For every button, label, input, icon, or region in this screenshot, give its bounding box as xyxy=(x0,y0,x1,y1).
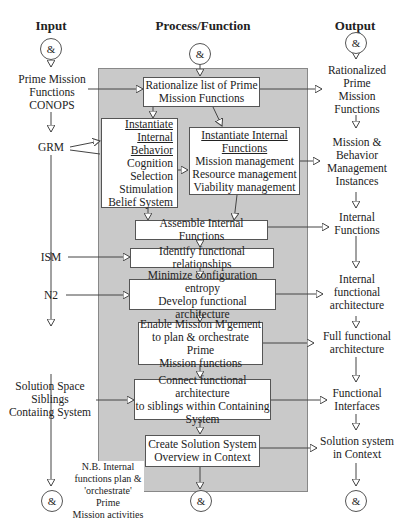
output-management-instances: Mission & Behavior Management Instances xyxy=(316,136,398,188)
process-identify-relationships: Identify functional relationships xyxy=(130,248,274,268)
input-grm: GRM xyxy=(30,141,72,154)
process-instantiate-functions: Instantiate Internal Functions Mission m… xyxy=(189,127,300,195)
note-orchestrate: N.B. Internal functions plan & 'orchestr… xyxy=(72,461,144,521)
process-label: Connect functional architecture to sibli… xyxy=(135,374,270,426)
output-rationalized-functions: Rationalized Prime Mission Functions xyxy=(318,64,396,116)
input-end-connector: & xyxy=(41,490,63,512)
output-internal-architecture: Internal functional architecture xyxy=(318,273,396,312)
input-prime-mission-functions: Prime Mission Functions CONOPS xyxy=(12,73,92,112)
process-label: Mission management Resource management V… xyxy=(192,155,296,194)
input-start-connector: & xyxy=(40,38,62,60)
output-solution-in-context: Solution system in Context xyxy=(316,435,398,461)
process-end-connector: & xyxy=(190,490,212,512)
process-label: Minimize configuration entropy Develop f… xyxy=(130,269,275,321)
input-ism: ISM xyxy=(30,251,72,264)
process-label: Create Solution System Overview in Conte… xyxy=(148,438,257,464)
process-label: Assemble Internal Functions xyxy=(136,217,267,243)
output-functional-interfaces: Functional Interfaces xyxy=(318,387,396,413)
process-label: Rationalize list of Prime Mission Functi… xyxy=(145,79,257,105)
input-n2: N2 xyxy=(30,289,72,302)
process-instantiate-behavior: Instantiate Internal Behavior Cognition … xyxy=(101,118,178,208)
output-internal-functions: Internal Functions xyxy=(318,211,396,237)
output-end-connector: & xyxy=(345,490,367,512)
process-assemble: Assemble Internal Functions xyxy=(135,220,268,240)
process-title: Instantiate Internal Functions xyxy=(201,129,288,155)
process-label: Enable Mission M'gement to plan & orches… xyxy=(139,318,262,370)
output-full-architecture: Full functional architecture xyxy=(316,330,398,356)
output-start-connector: & xyxy=(345,32,367,54)
process-label: Cognition Selection Stimulation Belief S… xyxy=(108,157,173,209)
process-minimize-entropy: Minimize configuration entropy Develop f… xyxy=(129,279,276,310)
process-enable-mission-mgmt: Enable Mission M'gement to plan & orches… xyxy=(138,322,263,365)
input-solution-space: Solution Space Siblings Contaiing System xyxy=(4,380,96,419)
process-create-overview: Create Solution System Overview in Conte… xyxy=(145,435,260,467)
process-start-connector: & xyxy=(189,43,211,65)
process-rationalize: Rationalize list of Prime Mission Functi… xyxy=(143,77,260,107)
process-label: Identify functional relationships xyxy=(131,245,273,271)
process-connect-architecture: Connect functional architecture to sibli… xyxy=(134,379,271,420)
process-title: Instantiate Internal Behavior xyxy=(125,118,173,157)
